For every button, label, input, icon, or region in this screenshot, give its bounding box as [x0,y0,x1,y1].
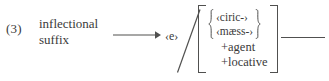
curly-brace-right-icon [255,9,261,39]
alternation-set: ‹ciric-› ‹mæss-› [208,9,268,39]
environment-line [281,37,325,38]
feature-row-locative: +locative [208,55,268,70]
curly-brace-left-icon [208,9,214,39]
matrix-bracket-left [198,5,206,73]
rule-left-hand-side: inflectional suffix [39,16,98,47]
alternation-option-2: ‹mæss-› [216,24,253,38]
rule-lhs-line-1: inflectional [39,16,98,31]
feature-matrix: ‹ciric-› ‹mæss-› +agent +locative [198,5,278,73]
linguistic-rule-figure: (3) inflectional suffix ‹e› ‹ci [0,0,329,81]
alternation-option-1: ‹ciric-› [216,10,253,24]
long-rightwards-arrow-icon [113,29,161,41]
matrix-body: ‹ciric-› ‹mæss-› +agent +locative [206,5,270,73]
alternation-items: ‹ciric-› ‹mæss-› [214,9,255,39]
matrix-bracket-right [270,5,278,73]
feature-row-agent: +agent [208,40,268,55]
rule-lhs-line-2: suffix [39,32,98,47]
example-number: (3) [6,21,22,37]
